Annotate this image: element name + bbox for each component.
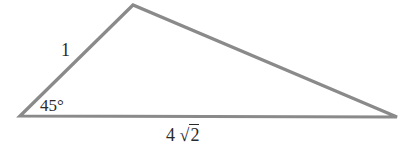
radical-sign: √	[180, 125, 190, 145]
square-root: √2	[180, 126, 200, 144]
radicand: 2	[189, 124, 199, 145]
side-length-label: 1	[61, 41, 70, 59]
triangle-diagram: 1 45° 4 √2	[0, 0, 400, 153]
triangle-shape	[0, 0, 400, 153]
base-coefficient: 4	[166, 125, 175, 145]
angle-label: 45°	[40, 97, 64, 114]
base-length-label: 4 √2	[166, 126, 199, 144]
triangle-outline	[20, 5, 397, 117]
